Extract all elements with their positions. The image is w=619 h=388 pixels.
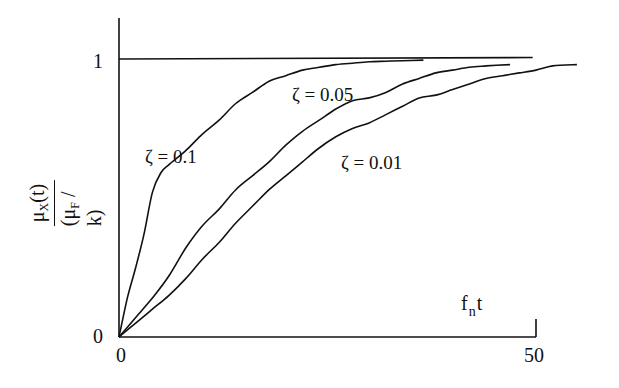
annotation-zeta-0.01: ζ = 0.01: [341, 153, 402, 172]
x-axis-label-tail: t: [477, 292, 483, 314]
y-axis-label-numerator: μX(t): [26, 180, 55, 226]
y-tick-1: 1: [93, 51, 103, 71]
annotation-zeta-0.05: ζ = 0.05: [292, 85, 353, 104]
curve-zeta-0.01: [119, 65, 577, 337]
x-axis-label: fnt: [461, 293, 482, 319]
curve-zeta-0.1: [119, 60, 423, 337]
y-tick-0: 0: [93, 326, 103, 346]
y-axis-label-denominator: (μF / k): [55, 180, 106, 226]
reference-line-y-1: [119, 58, 533, 60]
x-axis-label-sub: n: [469, 304, 476, 319]
curve-zeta-0.05: [119, 65, 510, 337]
annotation-zeta-0.1: ζ = 0.1: [145, 147, 197, 166]
y-axis-label: μX(t) (μF / k): [22, 148, 110, 258]
x-tick-0: 0: [116, 345, 126, 365]
x-tick-50: 50: [524, 345, 544, 365]
x-axis-label-head: f: [461, 292, 468, 314]
